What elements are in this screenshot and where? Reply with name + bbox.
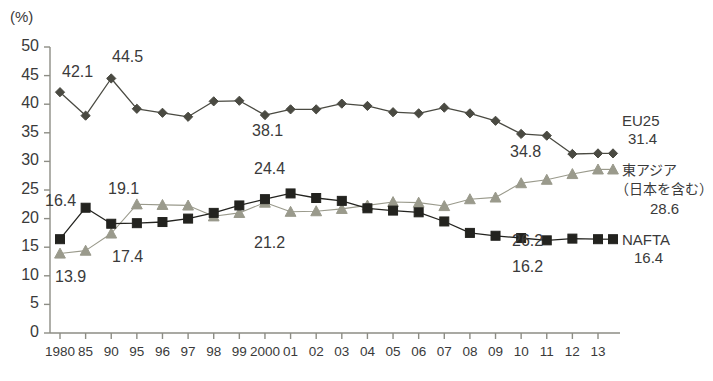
data-point-label: 44.5	[112, 48, 143, 66]
legend-value-nafta: 16.4	[634, 249, 663, 266]
data-point-label: 24.4	[254, 160, 285, 178]
y-tick-label: 15	[5, 237, 39, 255]
data-point-label: 16.2	[512, 258, 543, 276]
data-point-label: 21.2	[254, 234, 285, 252]
data-point-label: 16.4	[45, 192, 76, 210]
x-tick-label: 13	[576, 344, 620, 359]
legend-value-east-asia: 28.6	[650, 200, 679, 217]
data-point-label: 38.1	[252, 122, 283, 140]
data-point-label: 17.4	[112, 248, 143, 266]
legend-label-east-asia-line2: （日本を含む）	[615, 181, 713, 198]
y-tick-label: 40	[5, 94, 39, 112]
legend-label-east-asia-line1: 東アジア	[622, 162, 677, 179]
legend-value-eu25: 31.4	[628, 130, 657, 147]
y-tick-label: 20	[5, 209, 39, 227]
y-tick-label: 30	[5, 151, 39, 169]
data-point-label: 13.9	[55, 268, 86, 286]
data-point-label: 34.8	[510, 143, 541, 161]
legend-label-eu25: EU25	[622, 112, 660, 129]
y-tick-label: 45	[5, 66, 39, 84]
y-tick-label: 50	[5, 37, 39, 55]
y-tick-label: 0	[5, 323, 39, 341]
chart-container: (%) 05101520253035404550 198085909596979…	[0, 0, 713, 381]
data-point-label: 19.1	[108, 180, 139, 198]
y-tick-label: 35	[5, 123, 39, 141]
chart-plot-area	[0, 0, 713, 381]
legend-label-nafta: NAFTA	[622, 231, 670, 248]
y-tick-label: 10	[5, 266, 39, 284]
data-point-label: 42.1	[62, 63, 93, 81]
y-tick-label: 25	[5, 180, 39, 198]
y-tick-label: 5	[5, 294, 39, 312]
data-point-label: 26.2	[512, 232, 543, 250]
